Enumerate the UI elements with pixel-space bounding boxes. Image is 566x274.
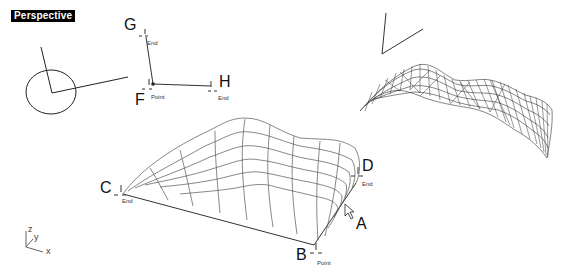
snap-text-g: End — [147, 40, 158, 46]
axis-x-label: x — [46, 246, 51, 256]
angle-lines[interactable] — [382, 13, 423, 54]
label-a: A — [356, 215, 367, 232]
snap-text-f: Point — [151, 94, 165, 100]
label-c: C — [100, 179, 112, 196]
snap-marker-g — [139, 29, 148, 36]
label-h: H — [219, 73, 231, 90]
snap-text-b: Point — [317, 260, 331, 266]
nurbs-surface[interactable] — [123, 118, 360, 245]
snap-text-c: End — [122, 198, 133, 204]
label-f: F — [135, 91, 145, 108]
snap-marker-f — [142, 79, 152, 89]
circle-with-lines[interactable] — [26, 47, 128, 114]
perspective-viewport[interactable]: Perspective G End F Point — [0, 0, 566, 274]
label-d: D — [362, 157, 374, 174]
point-f-marker — [151, 82, 155, 86]
snap-marker-c — [114, 185, 126, 195]
axis-z-label: z — [28, 224, 33, 234]
label-g: G — [124, 16, 136, 33]
snap-text-d: End — [362, 181, 373, 187]
arrow-cursor-icon — [345, 204, 354, 219]
mesh-surface[interactable] — [360, 64, 552, 158]
scene-canvas[interactable]: G End F Point H End — [0, 0, 566, 274]
axis-y-label: y — [34, 232, 39, 242]
snap-text-h: End — [218, 95, 229, 101]
label-b: B — [296, 246, 307, 263]
